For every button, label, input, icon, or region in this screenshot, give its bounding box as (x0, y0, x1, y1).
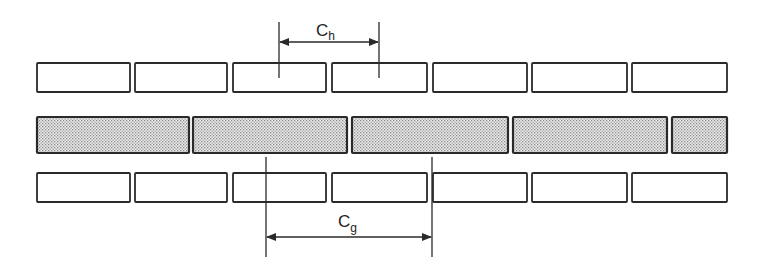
block (532, 63, 627, 92)
shaded-block (352, 117, 508, 153)
block (233, 173, 326, 202)
block (433, 173, 527, 202)
brick-pitch-diagram: Ch Cg (0, 0, 757, 268)
shaded-block (672, 117, 727, 153)
shaded-block (193, 117, 347, 153)
dimension-cg (266, 157, 432, 257)
block (37, 63, 130, 92)
block (135, 173, 227, 202)
block (532, 173, 627, 202)
label-ch: Ch (316, 21, 335, 43)
block (632, 173, 727, 202)
top-row-blocks (37, 63, 727, 92)
shaded-block (37, 117, 189, 153)
middle-row-shaded-blocks (37, 117, 727, 153)
block (632, 63, 727, 92)
block (433, 63, 527, 92)
bottom-row-blocks (37, 173, 727, 202)
block (135, 63, 227, 92)
block (332, 173, 427, 202)
shaded-block (513, 117, 667, 153)
label-cg: Cg (338, 212, 357, 235)
block (37, 173, 130, 202)
